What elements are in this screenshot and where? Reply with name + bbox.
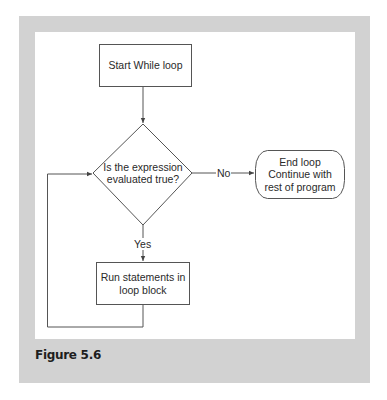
- edge-label-no: No: [216, 167, 231, 179]
- end-node-label: End loop Continue with rest of program: [255, 150, 345, 199]
- flowchart: [0, 0, 387, 400]
- body-node-label: Run statements in loop block: [96, 262, 190, 305]
- condition-node-label: Is the expression evaluated true?: [93, 160, 193, 186]
- edge-label-yes: Yes: [133, 238, 152, 250]
- start-node-label: Start While loop: [99, 44, 192, 87]
- figure-caption: Figure 5.6: [35, 348, 101, 362]
